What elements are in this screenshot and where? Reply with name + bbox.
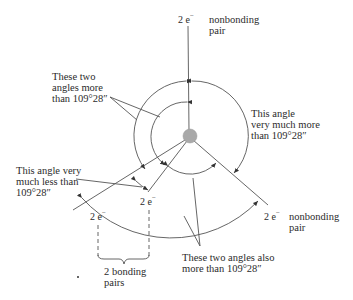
right-pair-desc: nonbonding pair (289, 211, 339, 233)
middle-bond-sup: − (152, 194, 156, 202)
right-nonbonding-axis (193, 140, 268, 205)
annotation-angle-much-more-line1: This angle (251, 108, 320, 119)
nucleus (183, 129, 197, 143)
leader-much-less (76, 179, 142, 187)
annotation-two-angles-also-more-line1: These two angles also (182, 252, 274, 263)
annotation-two-angles-also-more: These two angles also more than 109°28″ (182, 252, 274, 274)
bonding-pairs-brace (98, 255, 149, 264)
top-pair-desc: nonbonding pair (209, 14, 259, 36)
leader-two-angles-1 (110, 97, 160, 117)
leader-two-angles-2 (110, 97, 137, 120)
stray-dot (77, 276, 79, 278)
annotation-angle-much-more-line3: than 109°28″ (251, 130, 320, 141)
annotation-angle-much-less-line2: much less than (16, 176, 81, 187)
right-pair-desc-line2: pair (289, 222, 339, 233)
top-pair-count: 2 e− (178, 14, 194, 25)
top-pair-desc-line1: nonbonding (209, 14, 259, 25)
middle-bond-axis (148, 141, 187, 192)
annotation-two-angles-more-line1: These two (52, 71, 108, 82)
annotation-two-angles-more: These two angles more than 109°28″ (52, 71, 108, 104)
right-pair-count-text: 2 e (264, 211, 276, 222)
right-pair-desc-line1: nonbonding (289, 211, 339, 222)
top-nonbonding-axis (188, 26, 189, 132)
bottom-large-arc (82, 198, 258, 238)
top-pair-desc-line2: pair (209, 25, 259, 36)
right-pair-count: 2 e− (264, 211, 280, 222)
annotation-angle-much-less: This angle very much less than 109°28″ (16, 165, 81, 198)
left-bond-count-text: 2 e (90, 211, 102, 222)
middle-bond-count: 2 e− (140, 196, 156, 207)
annotation-angle-much-less-line1: This angle very (16, 165, 81, 176)
bond-bond-arc (136, 181, 148, 190)
left-bond-count: 2 e− (90, 211, 106, 222)
annotation-angle-much-less-line3: 109°28″ (16, 187, 81, 198)
annotation-two-angles-more-line2: angles more (52, 82, 108, 93)
annotation-two-angles-also-more-line2: more than 109°28″ (182, 263, 274, 274)
top-pair-sup: − (190, 12, 194, 20)
annotation-two-angles-more-line3: than 109°28″ (52, 93, 108, 104)
outer-right-arc (192, 81, 248, 173)
annotation-angle-much-more-line2: very much more (251, 119, 320, 130)
left-bond-axis (73, 140, 185, 210)
left-bond-sup: − (102, 209, 106, 217)
bonding-pairs-line2: pairs (104, 277, 146, 288)
bonding-pairs-line1: 2 bonding (104, 266, 146, 277)
bonding-pairs-label: 2 bonding pairs (104, 266, 146, 288)
annotation-angle-much-more: This angle very much more than 109°28″ (251, 108, 320, 141)
middle-bond-count-text: 2 e (140, 196, 152, 207)
inner-bottom-arc (168, 163, 216, 174)
inner-left-arc (151, 102, 187, 165)
right-pair-sup: − (276, 209, 280, 217)
vsepr-angle-diagram (0, 0, 353, 300)
top-pair-count-text: 2 e (178, 14, 190, 25)
